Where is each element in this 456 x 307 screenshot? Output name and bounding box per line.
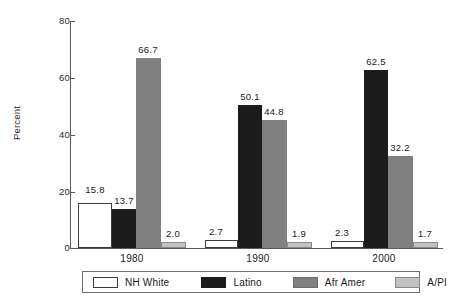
bar-label-2000-a-pi: 1.7: [403, 229, 447, 239]
bar-label-1990-afr-amer: 44.8: [252, 107, 296, 117]
legend-label-latino: Latino: [233, 277, 261, 288]
bar-label-1990-a-pi: 1.9: [277, 229, 321, 239]
bar-1980-afr-amer[interactable]: [136, 58, 161, 248]
bar-label-2000-nh-white: 2.3: [320, 228, 364, 238]
bar-label-2000-latino: 62.5: [354, 57, 398, 67]
bar-1980-nh-white[interactable]: [78, 203, 112, 248]
legend-item-afr-amer[interactable]: Afr Amer: [293, 272, 366, 292]
legend-item-a-pi[interactable]: A/PI: [395, 272, 447, 292]
plot-area: 15.8 13.7 66.7 2.0 2.7 50.1 44.8 1.9 2.3…: [0, 0, 456, 248]
legend-swatch-a-pi-icon: [395, 277, 420, 288]
bar-label-1990-latino: 50.1: [228, 92, 272, 102]
legend-swatch-latino-icon: [201, 277, 226, 288]
x-label-2000: 2000: [362, 253, 406, 264]
bar-label-1990-nh-white: 2.7: [194, 227, 238, 237]
legend-label-afr-amer: Afr Amer: [325, 277, 366, 288]
legend: NH White Latino Afr Amer A/PI: [82, 271, 420, 293]
legend-label-nh-white: NH White: [125, 277, 169, 288]
legend-item-nh-white[interactable]: NH White: [93, 272, 169, 292]
legend-label-a-pi: A/PI: [427, 277, 447, 288]
bar-2000-latino[interactable]: [364, 70, 388, 248]
bar-1990-nh-white[interactable]: [205, 240, 238, 248]
bar-1990-latino[interactable]: [238, 105, 262, 248]
bar-label-1980-nh-white: 15.8: [73, 185, 117, 195]
legend-swatch-nh-white-icon: [93, 277, 118, 288]
bar-label-2000-afr-amer: 32.2: [378, 143, 422, 153]
bar-2000-nh-white[interactable]: [331, 241, 364, 248]
legend-item-latino[interactable]: Latino: [201, 272, 261, 292]
x-label-1990: 1990: [236, 253, 280, 264]
bar-label-1980-a-pi: 2.0: [151, 229, 195, 239]
x-label-1980: 1980: [110, 253, 154, 264]
x-axis-line: [70, 248, 443, 249]
bar-label-1980-afr-amer: 66.7: [126, 45, 170, 55]
bar-chart: Percent 80 60 40 20 0 15.8 13.7 66.7 2.0…: [0, 0, 456, 307]
bar-1980-latino[interactable]: [112, 209, 136, 248]
legend-swatch-afr-amer-icon: [293, 277, 318, 288]
